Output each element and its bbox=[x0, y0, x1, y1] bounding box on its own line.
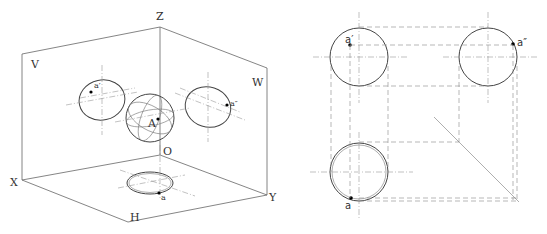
label-a-prime-3d: a′ bbox=[94, 81, 101, 90]
axis-label-x: X bbox=[10, 176, 18, 189]
label-a: a bbox=[345, 200, 351, 211]
orthographic-views: a′ a″ a bbox=[310, 12, 538, 220]
origin-label: O bbox=[163, 145, 172, 158]
three-plane-projection-box: a′ a″ A a Z X Y O V W H bbox=[10, 10, 277, 224]
axis-label-y: Y bbox=[268, 191, 277, 204]
plane-label-h: H bbox=[130, 211, 140, 224]
projection-diagram: a′ a″ A a Z X Y O V W H bbox=[0, 0, 547, 234]
plane-label-w: W bbox=[252, 76, 264, 89]
miter-line bbox=[434, 117, 519, 202]
label-a-double-prime: a″ bbox=[517, 37, 527, 48]
label-a-double-prime-3d: a″ bbox=[230, 99, 238, 108]
axis-label-z: Z bbox=[156, 10, 164, 23]
plane-label-v: V bbox=[30, 58, 40, 71]
label-a-3d: a bbox=[161, 193, 166, 202]
label-space-point-A: A bbox=[147, 117, 157, 130]
label-a-prime: a′ bbox=[345, 34, 354, 45]
